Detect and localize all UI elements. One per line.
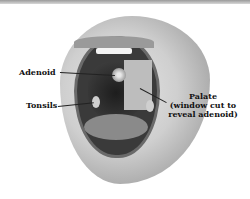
top-border — [0, 0, 250, 4]
label-tonsils: Tonsils — [26, 101, 57, 110]
label-palate: Palate (window cut to reveal adenoid) — [163, 92, 243, 119]
upper-lip — [74, 36, 154, 48]
tongue — [84, 114, 148, 140]
label-adenoid: Adenoid — [19, 68, 56, 77]
label-palate-line3: reveal adenoid) — [163, 110, 243, 119]
right-tonsil — [146, 100, 154, 112]
upper-teeth — [96, 48, 132, 54]
